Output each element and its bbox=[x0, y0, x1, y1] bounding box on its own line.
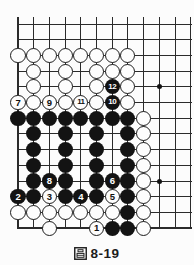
black-stone bbox=[26, 111, 41, 126]
black-stone bbox=[89, 111, 104, 126]
black-stone-move-8: 8 bbox=[42, 173, 57, 188]
white-stone bbox=[26, 64, 41, 79]
move-number: 3 bbox=[47, 192, 52, 202]
white-stone bbox=[89, 95, 104, 110]
white-stone bbox=[120, 79, 135, 94]
white-stone bbox=[105, 48, 120, 63]
white-stone-move-11: 11 bbox=[73, 95, 88, 110]
white-stone bbox=[136, 173, 151, 188]
black-stone bbox=[105, 221, 120, 236]
white-stone bbox=[42, 221, 57, 236]
white-stone bbox=[89, 48, 104, 63]
move-number: 11 bbox=[77, 98, 84, 106]
grid-line-horizontal bbox=[17, 39, 192, 40]
white-stone bbox=[26, 95, 41, 110]
white-stone-move-1: 1 bbox=[89, 221, 104, 236]
black-stone bbox=[42, 111, 57, 126]
grid-line-vertical bbox=[159, 17, 160, 229]
move-number: 10 bbox=[108, 98, 116, 106]
white-stone bbox=[26, 48, 41, 63]
figure-char-tu-glyph bbox=[74, 247, 87, 260]
grid-line-horizontal bbox=[17, 149, 192, 150]
go-board: 127911108623451 bbox=[0, 0, 194, 238]
black-stone bbox=[26, 126, 41, 141]
black-stone bbox=[120, 126, 135, 141]
black-stone bbox=[120, 173, 135, 188]
black-stone bbox=[58, 111, 73, 126]
black-stone bbox=[89, 158, 104, 173]
white-stone bbox=[42, 205, 57, 220]
white-stone bbox=[10, 48, 25, 63]
black-stone bbox=[58, 158, 73, 173]
black-stone-move-6: 6 bbox=[105, 173, 120, 188]
grid-line-horizontal bbox=[17, 24, 192, 25]
white-stone bbox=[42, 48, 57, 63]
black-stone bbox=[120, 158, 135, 173]
black-stone-move-2: 2 bbox=[10, 189, 25, 204]
white-stone bbox=[10, 205, 25, 220]
black-stone bbox=[89, 126, 104, 141]
black-stone bbox=[120, 221, 135, 236]
black-stone bbox=[26, 173, 41, 188]
move-number: 5 bbox=[110, 192, 115, 202]
white-stone bbox=[120, 95, 135, 110]
black-stone bbox=[120, 205, 135, 220]
black-stone bbox=[89, 142, 104, 157]
white-stone bbox=[136, 189, 151, 204]
white-stone bbox=[58, 95, 73, 110]
white-stone-move-9: 9 bbox=[42, 95, 57, 110]
black-stone-move-12: 12 bbox=[105, 79, 120, 94]
white-stone bbox=[136, 142, 151, 157]
black-stone bbox=[26, 158, 41, 173]
move-number: 2 bbox=[15, 192, 20, 202]
white-stone bbox=[89, 79, 104, 94]
black-stone bbox=[120, 111, 135, 126]
star-point bbox=[157, 84, 162, 89]
black-stone-move-10: 10 bbox=[105, 95, 120, 110]
white-stone bbox=[58, 79, 73, 94]
move-number: 1 bbox=[94, 223, 99, 233]
black-stone bbox=[89, 189, 104, 204]
black-stone bbox=[73, 111, 88, 126]
move-number: 4 bbox=[78, 192, 83, 202]
white-stone bbox=[136, 126, 151, 141]
white-stone bbox=[89, 64, 104, 79]
figure-number: 8-19 bbox=[90, 246, 119, 261]
white-stone bbox=[136, 111, 151, 126]
black-stone bbox=[120, 142, 135, 157]
white-stone bbox=[105, 205, 120, 220]
black-stone bbox=[10, 111, 25, 126]
black-stone bbox=[58, 142, 73, 157]
white-stone bbox=[136, 221, 151, 236]
move-number: 12 bbox=[108, 83, 116, 91]
white-stone bbox=[58, 205, 73, 220]
black-stone bbox=[58, 173, 73, 188]
white-stone-move-3: 3 bbox=[42, 189, 57, 204]
white-stone bbox=[136, 158, 151, 173]
white-stone bbox=[89, 205, 104, 220]
white-stone bbox=[136, 205, 151, 220]
black-stone-move-4: 4 bbox=[73, 189, 88, 204]
white-stone bbox=[120, 48, 135, 63]
black-stone bbox=[120, 189, 135, 204]
white-stone bbox=[58, 48, 73, 63]
move-number: 9 bbox=[47, 98, 52, 108]
move-number: 8 bbox=[47, 176, 52, 186]
black-stone bbox=[26, 142, 41, 157]
grid-line-horizontal bbox=[17, 165, 192, 166]
white-stone-move-5: 5 bbox=[105, 189, 120, 204]
white-stone-move-7: 7 bbox=[10, 95, 25, 110]
white-stone bbox=[58, 64, 73, 79]
grid-line-vertical bbox=[175, 17, 176, 229]
white-stone bbox=[73, 205, 88, 220]
white-stone bbox=[105, 64, 120, 79]
move-number: 7 bbox=[15, 98, 20, 108]
grid-line-vertical bbox=[190, 17, 191, 229]
white-stone bbox=[120, 64, 135, 79]
figure-caption: 8-19 bbox=[0, 243, 194, 263]
star-point bbox=[157, 179, 162, 184]
move-number: 6 bbox=[110, 176, 115, 186]
black-stone bbox=[58, 126, 73, 141]
black-stone bbox=[26, 189, 41, 204]
figure-page: 127911108623451 8-19 bbox=[0, 0, 194, 265]
